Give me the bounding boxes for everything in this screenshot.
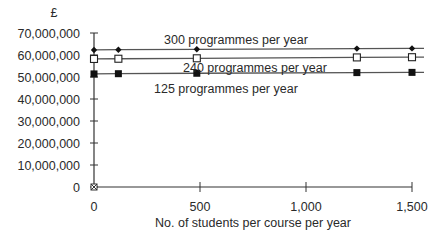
y-tick-label: 30,000,000: [17, 115, 80, 129]
filled-square-marker: [409, 69, 416, 76]
series-line-2: [94, 57, 424, 59]
diamond-marker: [194, 46, 200, 52]
x-tick-label: 1,500: [396, 200, 427, 214]
y-tick-label: 0: [73, 181, 80, 195]
y-tick-label: 60,000,000: [17, 49, 80, 63]
y-tick-label: 40,000,000: [17, 93, 80, 107]
filled-square-marker: [353, 69, 360, 76]
filled-square-marker: [91, 70, 98, 77]
diamond-marker: [409, 45, 415, 51]
x-axis-label: No. of students per course per year: [155, 216, 351, 230]
x-tick-label: 500: [190, 200, 211, 214]
y-tick-label: 70,000,000: [17, 27, 80, 41]
y-tick-label: 20,000,000: [17, 137, 80, 151]
labels: 010,000,00020,000,00030,000,00040,000,00…: [17, 6, 427, 230]
diamond-marker: [91, 47, 97, 53]
chart: 010,000,00020,000,00030,000,00040,000,00…: [0, 0, 445, 246]
series-label-2: 240 programmes per year: [183, 61, 327, 75]
series-line-1: [94, 48, 424, 50]
x-tick-label: 0: [91, 200, 98, 214]
open-square-marker: [409, 54, 416, 61]
filled-square-marker: [115, 70, 122, 77]
y-tick-label: 10,000,000: [17, 159, 80, 173]
y-tick-label: 50,000,000: [17, 71, 80, 85]
diamond-marker: [115, 47, 121, 53]
open-square-marker: [115, 55, 122, 62]
x-tick-label: 1,000: [290, 200, 321, 214]
diamond-marker: [354, 45, 360, 51]
open-square-marker: [353, 54, 360, 61]
y-axis-label: £: [51, 6, 58, 20]
open-square-marker: [91, 55, 98, 62]
series-label-3: 125 programmes per year: [154, 82, 298, 96]
series-label-1: 300 programmes per year: [164, 33, 308, 47]
